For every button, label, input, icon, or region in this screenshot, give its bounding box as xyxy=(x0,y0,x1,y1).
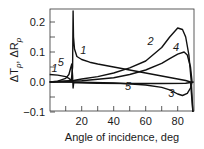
curve-label-4: 4 xyxy=(173,41,179,53)
x-tick-label: 20 xyxy=(76,115,88,127)
curve-label-1: 1 xyxy=(80,44,86,56)
y-tick-label: 0.0 xyxy=(30,76,45,88)
curve-label-2: 2 xyxy=(146,35,153,47)
chart: 20406080 −0.10.00.10.2 1152453 Angle of … xyxy=(0,0,204,149)
curve-label-3: 3 xyxy=(168,87,175,99)
y-axis-label: ΔTp, ΔRp xyxy=(8,37,23,82)
x-axis-tick-labels: 20406080 xyxy=(76,115,184,127)
x-tick-label: 60 xyxy=(140,115,152,127)
curve-label-5: 5 xyxy=(58,56,65,68)
x-axis-label: Angle of incidence, deg xyxy=(65,131,179,143)
x-tick-label: 80 xyxy=(172,115,184,127)
x-tick-label: 40 xyxy=(108,115,120,127)
curve-2 xyxy=(50,28,193,112)
curve-label-5: 5 xyxy=(125,80,132,92)
y-tick-label: 0.2 xyxy=(30,16,45,28)
y-axis-tick-labels: −0.10.00.10.2 xyxy=(23,16,45,118)
curve-label-1: 1 xyxy=(51,62,57,74)
y-tick-label: −0.1 xyxy=(23,106,45,118)
y-tick-label: 0.1 xyxy=(30,46,45,58)
x-axis-ticks xyxy=(66,106,178,111)
